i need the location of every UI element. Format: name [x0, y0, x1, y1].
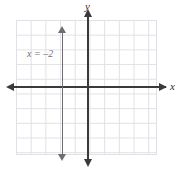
y-axis-arrow-down-icon	[84, 159, 92, 167]
y-axis-label: y	[85, 1, 90, 12]
x-axis-arrow-right-icon	[159, 83, 167, 91]
plotted-line-arrow-down-icon	[58, 154, 66, 161]
x-axis-arrow-left-icon	[6, 83, 14, 91]
plotted-line-x-equals-negative-2	[62, 32, 64, 156]
y-axis	[87, 12, 89, 164]
equation-label: x = –2	[27, 49, 53, 59]
plotted-line-arrow-up-icon	[58, 26, 66, 33]
coordinate-plane-figure: y x x = –2	[0, 0, 182, 173]
x-axis-label: x	[170, 81, 175, 92]
